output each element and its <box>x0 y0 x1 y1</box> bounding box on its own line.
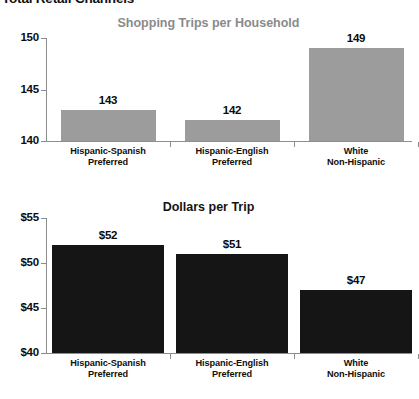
category-label: Hispanic-SpanishPreferred <box>46 358 170 379</box>
category-label-line: Hispanic-Spanish <box>46 146 170 157</box>
y-tick <box>41 263 46 264</box>
y-tick <box>41 38 46 39</box>
category-label-line: Preferred <box>46 157 170 168</box>
category-label: Hispanic-SpanishPreferred <box>46 146 170 167</box>
y-tick-label: $40 <box>2 346 39 358</box>
category-label-line: Non-Hispanic <box>294 157 418 168</box>
y-tick-label: $50 <box>2 256 39 268</box>
x-axis <box>46 353 412 354</box>
y-axis <box>46 38 47 141</box>
page-heading: Total Retail Channels <box>2 0 134 3</box>
category-label-line: Hispanic-English <box>170 146 294 157</box>
bar-value-label: 142 <box>185 104 280 116</box>
bar-value-label: $47 <box>300 274 412 286</box>
category-label-line: Preferred <box>46 369 170 380</box>
y-tick <box>41 141 46 142</box>
plot-area-shopping-trips: 140145150143142149 <box>46 38 417 141</box>
y-tick-label: 145 <box>2 83 39 95</box>
category-label-line: Hispanic-Spanish <box>46 358 170 369</box>
category-label-line: Hispanic-English <box>170 358 294 369</box>
y-tick-label: 150 <box>2 31 39 43</box>
y-tick <box>41 90 46 91</box>
category-label: Hispanic-EnglishPreferred <box>170 358 294 379</box>
category-label-line: White <box>294 146 418 157</box>
y-tick-label: $55 <box>2 211 39 223</box>
bar <box>61 110 156 141</box>
bar <box>300 290 412 353</box>
bar <box>309 48 404 141</box>
category-label-line: Preferred <box>170 369 294 380</box>
x-axis <box>46 141 412 142</box>
y-tick-label: $45 <box>2 301 39 313</box>
y-tick <box>41 353 46 354</box>
bar <box>52 245 164 353</box>
bar-value-label: 149 <box>309 32 404 44</box>
bar <box>185 120 280 141</box>
y-tick <box>41 218 46 219</box>
bar-value-label: 143 <box>61 94 156 106</box>
chart-title-dollars-per-trip: Dollars per Trip <box>0 200 417 214</box>
chart-title-shopping-trips: Shopping Trips per Household <box>0 16 417 30</box>
category-label-line: White <box>294 358 418 369</box>
y-tick <box>41 308 46 309</box>
category-label-line: Preferred <box>170 157 294 168</box>
bar <box>176 254 288 353</box>
category-label: Hispanic-EnglishPreferred <box>170 146 294 167</box>
category-label: WhiteNon-Hispanic <box>294 358 418 379</box>
bar-value-label: $51 <box>176 238 288 250</box>
y-tick-label: 140 <box>2 134 39 146</box>
bar-value-label: $52 <box>52 229 164 241</box>
plot-area-dollars-per-trip: $40$45$50$55$52$51$47 <box>46 218 417 353</box>
category-label: WhiteNon-Hispanic <box>294 146 418 167</box>
category-label-line: Non-Hispanic <box>294 369 418 380</box>
y-axis <box>46 218 47 353</box>
